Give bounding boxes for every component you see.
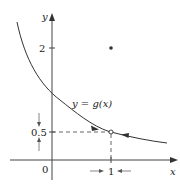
curve-arrow-right-icon [121, 133, 129, 138]
curve-left-branch [17, 22, 109, 132]
origin-label: 0 [42, 164, 48, 175]
hole-open-circle [109, 130, 113, 134]
curve-label: y = g(x) [71, 98, 112, 109]
y-axis-label: y [41, 11, 48, 22]
limit-graph-figure: y 2 0.5 0 1 x y = g(x) [0, 0, 180, 187]
graph-svg: y 2 0.5 0 1 x y = g(x) [0, 0, 180, 187]
x-tick-label-1: 1 [108, 166, 114, 177]
curve-right-branch [113, 133, 167, 144]
x-axis-label: x [170, 166, 176, 177]
y-tick-label-0.5: 0.5 [31, 127, 47, 138]
y-tick-label-2: 2 [39, 43, 45, 54]
x-axis-arrow-icon [170, 157, 178, 163]
y-axis-arrow-icon [49, 13, 55, 21]
x-approach-arrow-right-icon [99, 169, 104, 173]
x-approach-arrow-left-icon [117, 169, 122, 173]
point-filled-dot [109, 46, 113, 50]
